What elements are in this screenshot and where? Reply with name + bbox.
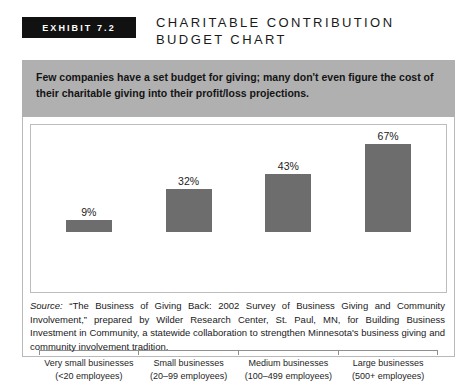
bar-group-very-small: 9%: [39, 131, 139, 232]
page-title-line-2: Budget Chart: [156, 31, 456, 48]
source-label: Source:: [30, 300, 63, 311]
category-name: Very small businesses: [44, 358, 133, 368]
chart-panel: 9% 32% 43% 67% Very small businesses (<: [30, 124, 447, 293]
bar-rect: [365, 144, 411, 232]
bar-rect: [166, 189, 212, 232]
bar-value-label: 67%: [378, 131, 399, 142]
bar-series: 9% 32% 43% 67%: [39, 131, 438, 232]
category-name: Large businesses: [353, 358, 424, 368]
exhibit-number-tag: EXHIBIT 7.2: [22, 17, 136, 38]
source-text: “The Business of Giving Back: 2002 Surve…: [30, 300, 445, 352]
page-title-line-1: Charitable Contribution: [156, 14, 456, 31]
category-label-medium: Medium businesses (100–499 employees): [239, 357, 339, 382]
bar-value-label: 43%: [278, 161, 299, 172]
x-axis-category-labels: Very small businesses (<20 employees) Sm…: [39, 357, 438, 382]
page-title: Charitable Contribution Budget Chart: [156, 14, 456, 48]
category-name: Medium businesses: [249, 358, 329, 368]
category-label-very-small: Very small businesses (<20 employees): [39, 357, 139, 382]
bar-rect: [265, 174, 311, 232]
category-range: (100–499 employees): [239, 370, 339, 382]
plot-area: 9% 32% 43% 67%: [39, 131, 438, 232]
bar-value-label: 9%: [81, 207, 96, 218]
category-range: (500+ employees): [338, 370, 438, 382]
source-note: Source: “The Business of Giving Back: 20…: [30, 299, 445, 353]
bar-group-large: 67%: [338, 131, 438, 232]
category-range: (20–99 employees): [139, 370, 239, 382]
intro-banner: Few companies have a set budget for givi…: [22, 60, 455, 117]
bar-group-medium: 43%: [239, 131, 339, 232]
intro-text: Few companies have a set budget for givi…: [36, 69, 440, 101]
exhibit-header: EXHIBIT 7.2 Charitable Contribution Budg…: [22, 16, 457, 60]
category-label-large: Large businesses (500+ employees): [338, 357, 438, 382]
category-name: Small businesses: [154, 358, 224, 368]
bar-value-label: 32%: [178, 176, 199, 187]
bar-rect: [66, 220, 112, 232]
category-range: (<20 employees): [39, 370, 139, 382]
bar-group-small: 32%: [139, 131, 239, 232]
category-label-small: Small businesses (20–99 employees): [139, 357, 239, 382]
